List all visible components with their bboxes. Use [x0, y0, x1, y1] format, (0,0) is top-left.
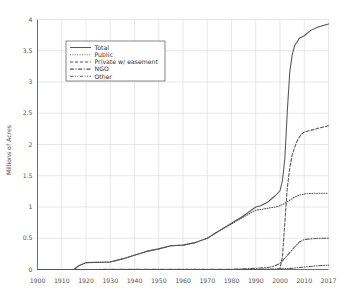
- y-tick-label: 4: [29, 16, 33, 23]
- x-tick-label: 1930: [102, 277, 118, 284]
- x-tick-label: 2010: [296, 277, 312, 284]
- x-tick-label: 1940: [127, 277, 143, 284]
- x-tick-label: 1950: [151, 277, 167, 284]
- y-tick-label: 0: [29, 266, 33, 273]
- x-tick-label: 1960: [175, 277, 191, 284]
- x-tick-label: 1920: [78, 277, 94, 284]
- x-tick-label: 2017: [321, 277, 337, 284]
- y-tick-label: 1: [29, 203, 33, 210]
- x-tick-label: 1990: [248, 277, 264, 284]
- x-axis-tick-labels: 1900191019201930194019501960197019801990…: [30, 277, 337, 284]
- legend-label-total: Total: [94, 44, 110, 51]
- y-tick-label: 1.5: [23, 172, 33, 179]
- y-tick-label: 3: [29, 78, 33, 85]
- legend-label-ngo: NGO: [95, 65, 109, 72]
- y-tick-label: 2: [29, 141, 33, 148]
- y-axis-title: Millions of Acres: [5, 125, 12, 175]
- y-tick-label: 2.5: [23, 109, 33, 116]
- x-tick-label: 1910: [54, 277, 70, 284]
- legend-label-private-w-easement: Private w/ easement: [95, 58, 159, 65]
- legend-label-public: Public: [95, 51, 114, 58]
- y-tick-label: 0.5: [23, 234, 33, 241]
- chart-container: 1900191019201930194019501960197019801990…: [0, 0, 349, 300]
- legend-label-other: Other: [95, 73, 113, 80]
- y-axis-tick-labels: 00.511.522.533.54: [23, 16, 33, 273]
- line-chart: 1900191019201930194019501960197019801990…: [0, 0, 349, 300]
- x-tick-label: 2000: [272, 277, 288, 284]
- x-tick-label: 1970: [199, 277, 215, 284]
- chart-legend: TotalPublicPrivate w/ easementNGOOther: [66, 41, 165, 81]
- x-tick-label: 1900: [30, 277, 46, 284]
- y-tick-label: 3.5: [23, 47, 33, 54]
- x-tick-label: 1980: [224, 277, 240, 284]
